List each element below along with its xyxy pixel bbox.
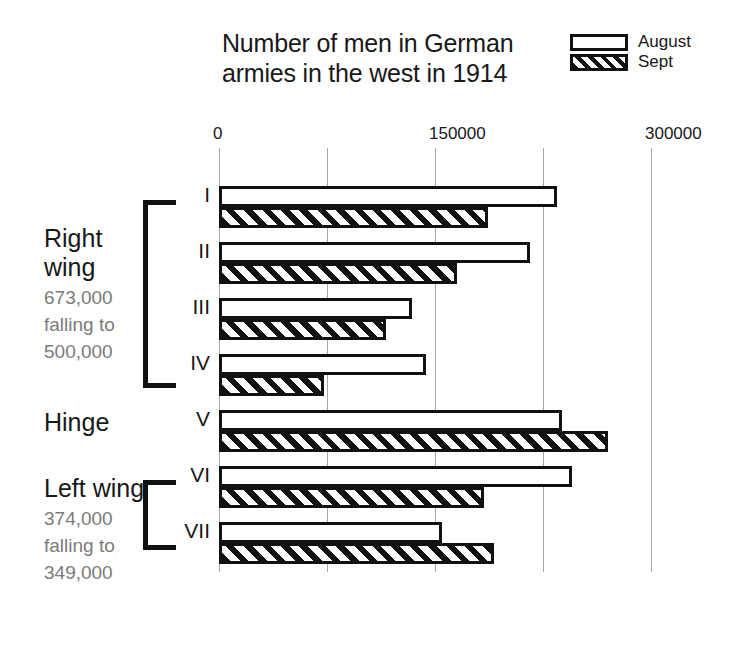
bar-august-II bbox=[219, 242, 530, 263]
row-numeral-VI: VI bbox=[170, 463, 210, 487]
bar-august-I bbox=[219, 186, 557, 207]
group-hinge: Hinge bbox=[44, 408, 148, 437]
bar-august-V bbox=[219, 410, 562, 431]
x-axis-tick-label-300000: 300000 bbox=[645, 124, 702, 144]
legend-swatch-sept bbox=[570, 54, 628, 71]
bar-sept-V bbox=[219, 431, 608, 452]
row-numeral-II: II bbox=[170, 239, 210, 263]
chart-title: Number of men in German armies in the we… bbox=[222, 28, 552, 88]
group-right-wing-note: 673,000 falling to 500,000 bbox=[44, 284, 148, 365]
bar-sept-VII bbox=[219, 543, 494, 564]
group-right-wing-label: Right wing bbox=[44, 224, 148, 282]
row-numeral-I: I bbox=[170, 183, 210, 207]
bar-august-VII bbox=[219, 522, 442, 543]
bar-sept-III bbox=[219, 319, 386, 340]
group-left-wing: Left wing 374,000 falling to 349,000 bbox=[44, 474, 148, 586]
group-left-wing-note-line-2: falling to bbox=[44, 532, 148, 559]
gridline-300000 bbox=[651, 148, 652, 572]
group-left-wing-label: Left wing bbox=[44, 474, 148, 503]
group-left-wing-note-line-3: 349,000 bbox=[44, 559, 148, 586]
gridline-225000 bbox=[543, 148, 544, 572]
bar-august-IV bbox=[219, 354, 426, 375]
chart-title-line-1: Number of men in German bbox=[222, 28, 552, 58]
chart-title-line-2: armies in the west in 1914 bbox=[222, 58, 552, 88]
row-numeral-V: V bbox=[170, 407, 210, 431]
group-left-wing-note: 374,000 falling to 349,000 bbox=[44, 505, 148, 586]
legend-label-august: August bbox=[638, 31, 691, 53]
group-left-wing-note-line-1: 374,000 bbox=[44, 505, 148, 532]
bar-sept-I bbox=[219, 207, 488, 228]
bar-august-VI bbox=[219, 466, 572, 487]
row-numeral-III: III bbox=[170, 295, 210, 319]
bar-august-III bbox=[219, 298, 412, 319]
legend-label-sept: Sept bbox=[638, 51, 673, 73]
group-right-wing-note-line-2: falling to bbox=[44, 311, 148, 338]
bar-sept-II bbox=[219, 263, 457, 284]
group-hinge-label: Hinge bbox=[44, 408, 148, 437]
bracket-right-wing bbox=[143, 200, 176, 388]
x-axis-tick-label-0: 0 bbox=[213, 124, 222, 144]
group-right-wing-note-line-1: 673,000 bbox=[44, 284, 148, 311]
bar-sept-IV bbox=[219, 375, 324, 396]
group-right-wing: Right wing 673,000 falling to 500,000 bbox=[44, 224, 148, 365]
row-numeral-VII: VII bbox=[170, 519, 210, 543]
group-right-wing-note-line-3: 500,000 bbox=[44, 338, 148, 365]
legend-swatch-august bbox=[570, 34, 628, 51]
row-numeral-IV: IV bbox=[170, 351, 210, 375]
x-axis-tick-label-150000: 150000 bbox=[429, 124, 486, 144]
chart-canvas: Number of men in German armies in the we… bbox=[0, 0, 750, 660]
bracket-left-wing bbox=[143, 480, 176, 550]
bar-sept-VI bbox=[219, 487, 484, 508]
